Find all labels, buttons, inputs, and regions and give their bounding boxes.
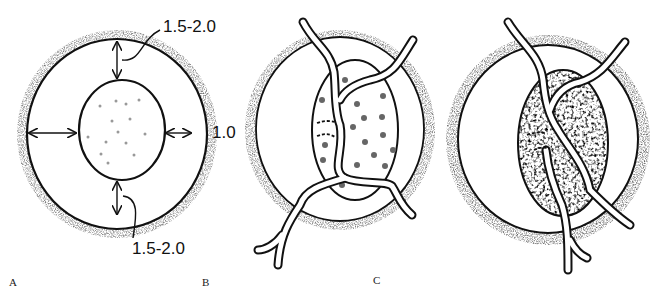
measurement-top-label: 1.5-2.0: [163, 18, 216, 35]
panel-c-drawing: [446, 22, 650, 270]
panel-label-b: B: [202, 277, 209, 288]
figure: 1.5-2.0 1.0 1.5-2.0 A B C: [0, 0, 654, 298]
measurement-bottom-label: 1.5-2.0: [132, 240, 185, 257]
inner-oval: [79, 80, 165, 180]
measurement-side-label: 1.0: [212, 124, 236, 141]
panel-a-drawing: [17, 30, 217, 238]
panel-label-c: C: [373, 275, 380, 286]
panel-label-a: A: [9, 277, 17, 288]
panel-b-drawing: [245, 22, 435, 265]
figure-drawing: [0, 0, 654, 298]
